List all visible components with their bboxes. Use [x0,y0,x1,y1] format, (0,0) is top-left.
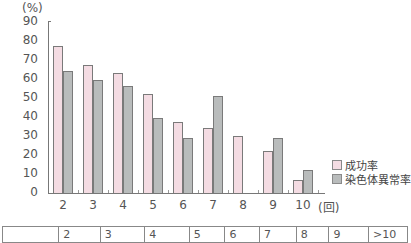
x-tick-mark [198,190,199,193]
bar-success-rate [173,122,183,193]
x-tick-label: 4 [113,198,133,212]
y-tick-label: 90 [14,14,38,28]
bar-success-rate [203,128,213,193]
bar-success-rate [233,136,243,193]
bar-success-rate [143,94,153,193]
bar-chromosome-abnormality-rate [153,118,163,193]
bar-success-rate [263,151,273,193]
bar-chromosome-abnormality-rate [63,71,73,193]
y-tick-label: 10 [14,166,38,180]
y-axis-top-tick [48,21,51,22]
y-tick-label: 30 [14,128,38,142]
table-cell: 2 [59,227,101,243]
x-tick-label: 6 [173,198,193,212]
bar-chromosome-abnormality-rate [273,138,283,193]
table-cell: >10 [369,227,408,243]
x-tick-label: 9 [263,198,283,212]
bar-chromosome-abnormality-rate [183,138,193,193]
y-axis-line [48,21,49,194]
bar-success-rate [83,65,93,193]
x-tick-mark [78,190,79,193]
legend-swatch-success-rate [332,160,342,170]
x-tick-label: 2 [53,198,73,212]
x-tick-mark [228,190,229,193]
x-tick-label: 3 [83,198,103,212]
table-cell: 4 [145,227,190,243]
y-tick-label: 80 [14,33,38,47]
y-tick-label: 40 [14,109,38,123]
x-tick-mark [258,190,259,193]
x-tick-mark [138,190,139,193]
x-tick-mark [168,190,169,193]
x-axis-unit: (回) [318,198,339,215]
table-cell: 7 [260,227,297,243]
x-tick-label: 8 [233,198,253,212]
legend-swatch-chromosome-abnormality-rate [332,174,342,184]
table-cell [3,227,59,243]
bar-success-rate [293,180,303,193]
x-tick-mark [108,190,109,193]
x-tick-mark [288,190,289,193]
x-tick-label: 10 [293,198,313,212]
bar-chromosome-abnormality-rate [213,96,223,193]
table-cell: 3 [100,227,145,243]
bar-chromosome-abnormality-rate [303,170,313,193]
bar-success-rate [53,46,63,193]
x-axis-line [48,193,325,194]
table-cell: 8 [296,227,329,243]
bar-chromosome-abnormality-rate [93,80,103,193]
table-cell: 5 [189,227,225,243]
data-table: 2 3 4 5 6 7 8 9 >10 [2,226,408,243]
x-tick-mark [318,190,319,193]
table-cell: 6 [225,227,260,243]
y-tick-label: 70 [14,52,38,66]
y-tick-label: 0 [14,185,38,199]
y-tick-label: 20 [14,147,38,161]
y-axis-unit: (%) [22,1,43,15]
bar-success-rate [113,73,123,193]
bar-chromosome-abnormality-rate [123,86,133,193]
x-tick-label: 7 [203,198,223,212]
table-header-row: 2 3 4 5 6 7 8 9 >10 [3,227,408,243]
legend-label-chromosome-abnormality-rate: 染色体異常率 [345,171,411,187]
y-tick-label: 60 [14,71,38,85]
x-tick-label: 5 [143,198,163,212]
table-cell: 9 [329,227,369,243]
y-tick-label: 50 [14,90,38,104]
